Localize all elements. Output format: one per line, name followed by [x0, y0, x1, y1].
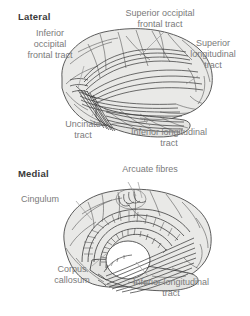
label-inferior-longitudinal-tract-medial: Inferior longitudinal tract — [108, 277, 234, 299]
brain-tracts-figure: Lateral Inferior occipital frontal tract… — [0, 0, 250, 316]
panel-medial: Medial Arcuate fibres Cingulum Corpus ca… — [0, 158, 250, 316]
label-corpus-callosum: Corpus callosum — [34, 264, 110, 286]
label-cingulum: Cingulum — [4, 194, 76, 205]
label-inferior-longitudinal-tract-lateral: Inferior longitudinal tract — [110, 127, 228, 149]
panel-title-lateral: Lateral — [18, 11, 51, 22]
panel-lateral: Lateral Inferior occipital frontal tract… — [0, 0, 250, 158]
label-superior-longitudinal-tract: Superior longitudinal tract — [180, 38, 246, 71]
label-arcuate-fibres: Arcuate fibres — [104, 164, 196, 175]
label-inferior-occipital-frontal-tract: Inferior occipital frontal tract — [8, 28, 92, 61]
label-superior-occipital-frontal-tract: Superior occipital frontal tract — [112, 8, 208, 30]
panel-title-medial: Medial — [18, 168, 49, 179]
label-uncinate-tract: Uncinate tract — [50, 119, 116, 141]
